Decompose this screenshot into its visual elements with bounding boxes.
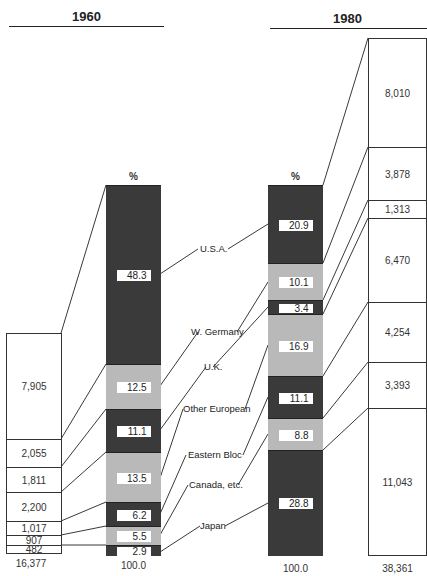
- pct-1960-usa: 48.3: [117, 270, 151, 281]
- box-1980-uk: 1,313: [368, 200, 427, 219]
- seg-1960-japan: 2.9: [106, 545, 161, 556]
- total-1980-percent: 100.0: [268, 563, 323, 574]
- total-1980-absolute: 38,361: [368, 563, 427, 574]
- label-other-european: Other European: [183, 403, 251, 414]
- pct-1980-japan: 28.8: [279, 498, 313, 509]
- pct-1980-canada: 8.8: [279, 430, 313, 441]
- seg-1980-canada: 8.8: [268, 418, 323, 451]
- seg-1980-japan: 28.8: [268, 450, 323, 556]
- box-1980-canada: 3,393: [368, 362, 427, 409]
- value-1960-usa: 7,905: [21, 381, 46, 392]
- pct-1960-japan: 2.9: [117, 547, 151, 556]
- value-1980-uk: 1,313: [385, 204, 410, 215]
- value-1980-w-germany: 3,878: [385, 169, 410, 180]
- pct-1960-other-european: 13.5: [117, 473, 151, 484]
- box-1980-other-european: 6,470: [368, 218, 427, 303]
- label-w-germany: W. Germany: [191, 326, 244, 337]
- seg-1980-w-germany: 10.1: [268, 263, 323, 301]
- value-1960-japan: 482: [26, 545, 43, 554]
- box-1960-other-european: 2,200: [6, 492, 62, 522]
- value-1980-japan: 11,043: [383, 477, 413, 488]
- pct-1980-eastern-bloc: 11.1: [279, 393, 313, 404]
- label-eastern-bloc: Eastern Bloc: [188, 449, 242, 460]
- pct-1980-usa: 20.9: [279, 220, 313, 231]
- value-1960-other-european: 2,200: [21, 502, 46, 513]
- label-japan: Japan: [200, 520, 226, 531]
- box-1960-eastern-bloc: 1,017: [6, 521, 62, 536]
- pct-1960-eastern-bloc: 6.2: [117, 510, 151, 521]
- pct-header-1980: %: [268, 171, 323, 182]
- seg-1980-eastern-bloc: 11.1: [268, 376, 323, 419]
- seg-1980-other-european: 16.9: [268, 314, 323, 377]
- value-1980-usa: 8,010: [385, 88, 410, 99]
- pct-1960-w-germany: 12.5: [117, 382, 151, 393]
- seg-1980-uk: 3.4: [268, 300, 323, 315]
- value-1980-canada: 3,393: [385, 380, 410, 391]
- pct-1980-other-european: 16.9: [279, 341, 313, 352]
- box-1980-w-germany: 3,878: [368, 147, 427, 201]
- pct-header-1960: %: [106, 171, 161, 182]
- label-usa: U.S.A.: [200, 243, 227, 254]
- seg-1960-other-european: 13.5: [106, 452, 161, 503]
- seg-1960-canada: 5.5: [106, 526, 161, 546]
- label-uk: U.K.: [204, 361, 222, 372]
- box-1980-eastern-bloc: 4,254: [368, 302, 427, 363]
- pct-1960-uk: 11.1: [117, 426, 151, 437]
- box-1960-w-germany: 2,055: [6, 439, 62, 468]
- label-canada: Canada, etc.: [189, 479, 243, 490]
- value-1960-uk: 1,811: [22, 475, 46, 486]
- total-1960-absolute: 16,377: [0, 558, 62, 569]
- pct-1960-canada: 5.5: [117, 531, 151, 542]
- seg-1980-usa: 20.9: [268, 185, 323, 264]
- value-1960-w-germany: 2,055: [21, 448, 46, 459]
- value-1960-eastern-bloc: 1,017: [21, 523, 46, 534]
- box-1960-usa: 7,905: [6, 333, 62, 440]
- seg-1960-w-germany: 12.5: [106, 364, 161, 410]
- total-1960-percent: 100.0: [106, 560, 161, 571]
- box-1980-usa: 8,010: [368, 38, 427, 148]
- seg-1960-eastern-bloc: 6.2: [106, 502, 161, 527]
- box-1960-japan: 482: [6, 545, 62, 554]
- pct-1980-w-germany: 10.1: [279, 277, 313, 288]
- pct-1980-uk: 3.4: [279, 304, 313, 313]
- value-1980-eastern-bloc: 4,254: [385, 327, 410, 338]
- box-1980-japan: 11,043: [368, 408, 427, 556]
- box-1960-uk: 1,811: [6, 467, 62, 493]
- value-1980-other-european: 6,470: [385, 255, 410, 266]
- seg-1960-usa: 48.3: [106, 185, 161, 365]
- seg-1960-uk: 11.1: [106, 409, 161, 453]
